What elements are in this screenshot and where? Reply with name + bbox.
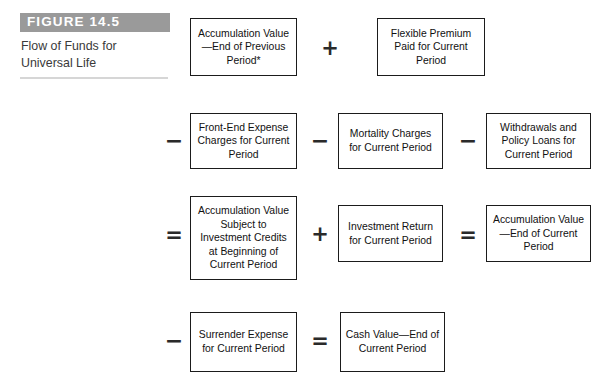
operator-plus-row1: +	[320, 38, 340, 58]
box-surrender-expense-label: Surrender Expense for Current Period	[195, 328, 292, 355]
operator-minus-row4: −	[164, 331, 184, 351]
figure-title-line-1: Flow of Funds for	[21, 38, 170, 55]
box-flexible-premium-paid: Flexible Premium Paid for Current Period	[377, 18, 485, 76]
box-surrender-expense: Surrender Expense for Current Period	[190, 312, 297, 372]
box-accumulation-value-end-current: Accumulation Value—End of Current Period	[486, 205, 591, 262]
operator-minus-row2-mid: −	[310, 131, 330, 151]
caption-divider	[20, 77, 168, 79]
box-mortality-charges-label: Mortality Charges for Current Period	[343, 127, 438, 154]
figure-caption-block: FIGURE 14.5 Flow of Funds for Universal …	[20, 13, 170, 79]
figure-title-line-2: Universal Life	[21, 55, 170, 72]
figure-canvas: FIGURE 14.5 Flow of Funds for Universal …	[0, 0, 615, 385]
operator-equals-row4: =	[310, 331, 330, 351]
box-accumulation-value-end-current-label: Accumulation Value—End of Current Period	[491, 213, 586, 254]
box-cash-value-end-current: Cash Value—End of Current Period	[340, 312, 445, 372]
operator-minus-row2-left: −	[164, 131, 184, 151]
figure-number-banner: FIGURE 14.5	[20, 13, 170, 32]
figure-title: Flow of Funds for Universal Life	[20, 38, 170, 71]
box-cash-value-end-current-label: Cash Value—End of Current Period	[345, 328, 440, 355]
box-withdrawals-and-policy-loans-label: Withdrawals and Policy Loans for Current…	[491, 121, 586, 162]
operator-equals-row3-left: =	[164, 225, 184, 245]
box-front-end-expense-charges: Front-End Expense Charges for Current Pe…	[190, 113, 297, 169]
box-accumulation-value-subject-to-credits: Accumulation Value Subject to Investment…	[190, 196, 297, 280]
operator-minus-row2-right: −	[458, 131, 478, 151]
box-front-end-expense-charges-label: Front-End Expense Charges for Current Pe…	[195, 121, 292, 162]
box-investment-return: Investment Return for Current Period	[338, 205, 443, 262]
box-flexible-premium-paid-label: Flexible Premium Paid for Current Period	[382, 27, 480, 68]
operator-equals-row3-right: =	[458, 225, 478, 245]
box-accumulation-value-end-previous-label: Accumulation Value—End of Previous Perio…	[195, 27, 292, 68]
box-investment-return-label: Investment Return for Current Period	[343, 220, 438, 247]
box-accumulation-value-subject-to-credits-label: Accumulation Value Subject to Investment…	[195, 204, 292, 272]
box-accumulation-value-end-previous: Accumulation Value—End of Previous Perio…	[190, 18, 297, 76]
operator-plus-row3: +	[310, 224, 330, 244]
box-mortality-charges: Mortality Charges for Current Period	[338, 113, 443, 169]
box-withdrawals-and-policy-loans: Withdrawals and Policy Loans for Current…	[486, 113, 591, 169]
